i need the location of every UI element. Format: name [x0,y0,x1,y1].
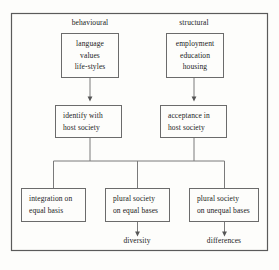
node-plural-society-equal-bases: plural society on equal bases [105,188,170,222]
outcome-diversity-text: diversity [123,236,150,245]
column-header-behavioural-label: behavioural [72,18,109,27]
outcome-label-diversity: diversity [123,236,150,245]
node-structural-inputs: employment education housing [166,33,224,78]
node-line: housing [183,61,207,73]
node-line: host society [168,122,205,134]
node-line: host society [63,122,100,134]
node-line: acceptance in [168,110,210,122]
node-line: values [80,50,100,62]
outcome-differences-text: differences [207,236,241,245]
diagram-connectors [0,0,279,270]
column-header-structural: structural [179,18,208,27]
node-line: on unequal bases [197,205,250,217]
node-line: on equal bases [113,205,158,217]
node-line: language [76,38,104,50]
node-acceptance-in-host-society: acceptance in host society [160,105,227,138]
node-integration-on-equal-basis: integration on equal basis [21,188,86,222]
node-line: life-styles [75,61,106,73]
node-line: equal basis [29,205,63,217]
node-identify-with-host-society: identify with host society [55,105,122,138]
column-header-behavioural: behavioural [72,18,109,27]
node-line: identify with [63,110,103,122]
node-behavioural-inputs: language values life-styles [61,33,119,78]
node-line: integration on [29,193,72,205]
outcome-label-differences: differences [207,236,241,245]
node-line: plural society [197,193,239,205]
diagram-figure: behavioural structural language values l… [0,0,279,270]
column-header-structural-label: structural [179,18,208,27]
node-line: plural society [113,193,155,205]
node-line: employment [176,38,215,50]
node-line: education [180,50,210,62]
node-plural-society-unequal-bases: plural society on unequal bases [189,188,259,222]
